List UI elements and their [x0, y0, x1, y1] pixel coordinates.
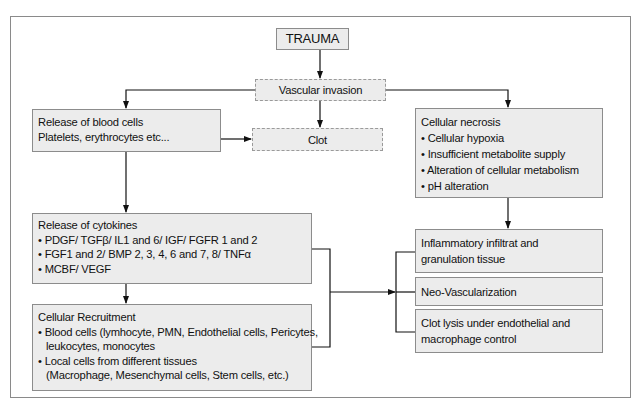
cytokines-box: Release of cytokines PDGF/ TGFβ/ IL1 and… — [32, 213, 312, 284]
necrosis-box: Cellular necrosis Cellular hypoxia Insuf… — [415, 108, 603, 198]
recruitment-item-cont: (Macrophage, Mesenchymal cells, Stem cel… — [38, 368, 306, 383]
necrosis-item: Insufficient metabolite supply — [421, 146, 597, 162]
outcome-line: Inflammatory infiltrat and — [421, 235, 597, 251]
trauma-box: TRAUMA — [276, 28, 349, 50]
recruitment-item: Blood cells (lymhocyte, PMN, Endothelial… — [38, 325, 306, 340]
blood-cells-detail: Platelets, erythrocytes etc... — [38, 130, 215, 145]
recruitment-item-cont: leukocytes, monocytes — [38, 339, 306, 354]
outcome-line: Clot lysis under endothelial and — [421, 315, 597, 331]
clot-box: Clot — [252, 128, 383, 151]
necrosis-item: Cellular hypoxia — [421, 130, 597, 146]
vascular-invasion-label: Vascular invasion — [279, 84, 362, 96]
outcome-inflammatory-box: Inflammatory infiltrat and granulation t… — [415, 229, 603, 273]
trauma-label: TRAUMA — [286, 31, 340, 46]
blood-cells-title: Release of blood cells — [38, 115, 215, 130]
clot-label: Clot — [308, 134, 327, 146]
recruitment-title: Cellular Recruitment — [38, 310, 306, 325]
blood-cells-box: Release of blood cells Platelets, erythr… — [32, 109, 221, 152]
cytokines-item: MCBF/ VEGF — [38, 262, 306, 277]
cytokines-title: Release of cytokines — [38, 218, 306, 233]
necrosis-item: Alteration of cellular metabolism — [421, 162, 597, 178]
outcome-line: granulation tissue — [421, 251, 597, 267]
vascular-invasion-box: Vascular invasion — [255, 79, 386, 101]
outcome-neovascularization-box: Neo-Vascularization — [415, 277, 603, 306]
outcome-line: macrophage control — [421, 331, 597, 347]
cytokines-item: FGF1 and 2/ BMP 2, 3, 4, 6 and 7, 8/ TNF… — [38, 247, 306, 262]
outcome-clot-lysis-box: Clot lysis under endothelial and macroph… — [415, 309, 603, 353]
recruitment-box: Cellular Recruitment Blood cells (lymhoc… — [32, 304, 312, 391]
necrosis-item: pH alteration — [421, 178, 597, 194]
recruitment-item: Local cells from different tissues — [38, 354, 306, 369]
cytokines-item: PDGF/ TGFβ/ IL1 and 6/ IGF/ FGFR 1 and 2 — [38, 233, 306, 248]
necrosis-title: Cellular necrosis — [421, 114, 597, 130]
outcome-line: Neo-Vascularization — [421, 284, 597, 300]
